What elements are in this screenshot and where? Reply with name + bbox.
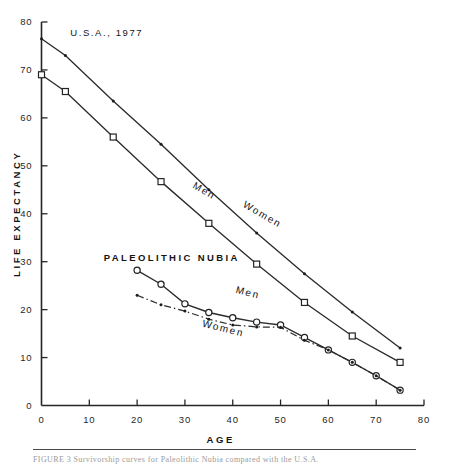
x-axis-tick-label: 0 <box>38 414 44 425</box>
data-point-marker <box>183 310 186 313</box>
y-axis-tick-label: 80 <box>20 16 32 27</box>
y-axis-tick-label: 70 <box>20 64 32 75</box>
data-point-marker <box>375 374 378 377</box>
y-axis-tick-label: 10 <box>20 352 32 363</box>
data-point-marker <box>351 361 354 364</box>
data-point-marker <box>206 309 212 315</box>
x-axis-tick-label: 20 <box>131 414 143 425</box>
figure-caption: FIGURE 3 Survivorship curves for Paleoli… <box>33 455 423 464</box>
x-axis-tick-label: 40 <box>227 414 239 425</box>
data-point-marker <box>327 348 330 351</box>
data-point-marker <box>62 89 68 95</box>
data-point-marker <box>158 281 164 287</box>
data-point-marker <box>182 301 188 307</box>
data-point-marker <box>254 319 260 325</box>
data-point-marker <box>303 339 306 342</box>
axes: 0102030405060708001020304050607080 <box>20 16 430 424</box>
x-axis-tick-label: 70 <box>370 414 382 425</box>
life-expectancy-chart: 0102030405060708001020304050607080 Women… <box>0 0 449 465</box>
series-inline-label: Women <box>201 318 245 339</box>
data-point-marker <box>255 231 258 234</box>
y-axis-tick-label: 20 <box>20 304 32 315</box>
y-axis-title: LIFE EXPECTANCY <box>11 151 22 277</box>
nubia-group-title: PALEOLITHIC NUBIA <box>104 252 240 263</box>
series-line <box>137 295 400 390</box>
caption-divider <box>33 449 416 450</box>
y-axis-tick-label: 0 <box>26 400 32 411</box>
x-axis-title: AGE <box>207 434 235 445</box>
x-axis-tick-label: 50 <box>274 414 286 425</box>
data-point-marker <box>399 346 402 349</box>
chart-annotations: WomenMenMenWomenU.S.A., 1977PALEOLITHIC … <box>70 27 284 339</box>
data-point-marker <box>303 272 306 275</box>
data-point-marker <box>301 299 307 305</box>
x-axis-tick-label: 60 <box>322 414 334 425</box>
data-point-marker <box>206 220 212 226</box>
data-point-marker <box>397 359 403 365</box>
x-axis-tick-label: 10 <box>83 414 95 425</box>
data-point-marker <box>279 326 282 329</box>
data-point-marker <box>255 325 258 328</box>
data-point-marker <box>158 179 164 185</box>
data-point-marker <box>112 100 115 103</box>
data-point-marker <box>39 72 45 78</box>
data-point-marker <box>40 37 43 40</box>
data-point-marker <box>134 267 140 273</box>
data-point-marker <box>110 134 116 140</box>
data-point-marker <box>64 54 67 57</box>
data-point-marker <box>136 294 139 297</box>
series-inline-label: Men <box>235 284 261 301</box>
x-axis-tick-label: 30 <box>179 414 191 425</box>
data-point-marker <box>349 333 355 339</box>
data-point-marker <box>160 303 163 306</box>
series-line <box>137 270 400 390</box>
data-point-marker <box>230 315 236 321</box>
data-point-marker <box>351 311 354 314</box>
figure-container: 0102030405060708001020304050607080 Women… <box>0 0 449 465</box>
data-series <box>39 37 404 393</box>
data-point-marker <box>160 143 163 146</box>
series-inline-label: Men <box>191 180 218 202</box>
usa-group-title: U.S.A., 1977 <box>70 27 143 38</box>
series-line <box>42 39 401 348</box>
x-axis-tick-label: 80 <box>418 414 430 425</box>
series-line <box>42 75 401 363</box>
y-axis-tick-label: 60 <box>20 112 32 123</box>
data-point-marker <box>254 261 260 267</box>
data-point-marker <box>399 389 402 392</box>
